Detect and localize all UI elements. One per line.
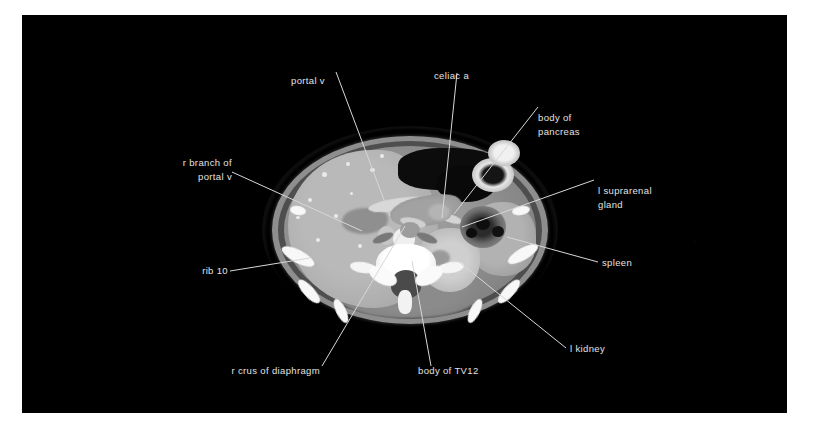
liver-vessel-speckle: [358, 244, 362, 248]
label-portal-v: portal v: [291, 74, 325, 88]
bowel-loop: [466, 228, 477, 238]
label-r-crus-of-diaphragm: r crus of diaphragm: [172, 364, 320, 378]
liver-vessel-speckle: [334, 214, 338, 218]
liver-vessel-speckle: [322, 172, 327, 177]
bowel-loop: [476, 218, 490, 230]
label-spleen: spleen: [602, 256, 632, 270]
radiograph-panel: portal v celiac a body of pancreas r bra…: [22, 15, 787, 413]
bowel-loop: [492, 226, 504, 237]
liver-vessel-speckle: [316, 238, 320, 242]
ct-axial-image: [250, 110, 570, 340]
label-l-suprarenal-line2: gland: [598, 198, 652, 212]
liver-vessel-speckle: [296, 216, 300, 219]
label-body-of-pancreas-line1: body of: [538, 111, 580, 125]
bowel-loop: [488, 140, 520, 166]
label-r-branch-of-portal-v: r branch of portal v: [82, 156, 232, 184]
label-l-suprarenal-gland: l suprarenal gland: [598, 184, 652, 212]
label-body-of-tv12: body of TV12: [418, 364, 479, 378]
label-r-branch-line1: r branch of: [82, 156, 232, 170]
label-l-kidney: l kidney: [570, 342, 605, 356]
label-celiac-a: celiac a: [434, 69, 469, 83]
liver-vessel-speckle: [380, 154, 384, 158]
label-rib-10: rib 10: [140, 264, 228, 278]
spinous-process: [398, 290, 412, 314]
label-body-of-pancreas: body of pancreas: [538, 111, 580, 139]
liver-vessel-speckle: [350, 192, 353, 195]
label-r-branch-line2: portal v: [82, 170, 232, 184]
liver-vessel-speckle: [370, 168, 375, 172]
liver-vessel-speckle: [308, 198, 312, 202]
label-body-of-pancreas-line2: pancreas: [538, 125, 580, 139]
label-l-suprarenal-line1: l suprarenal: [598, 184, 652, 198]
liver-vessel-speckle: [346, 162, 350, 166]
ct-figure-viewer: portal v celiac a body of pancreas r bra…: [0, 0, 814, 433]
bowel-loop: [426, 202, 452, 222]
